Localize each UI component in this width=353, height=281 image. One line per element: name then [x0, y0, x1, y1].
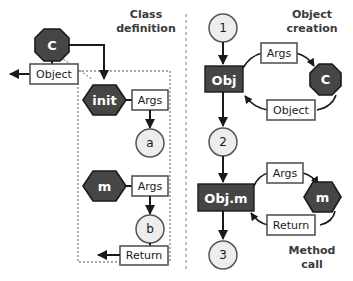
objm-box-label: Obj.m	[204, 191, 247, 206]
step-2-node-label: 2	[219, 135, 227, 149]
edge-return-to-objm-call	[251, 213, 268, 225]
right-panel-title-top-line1: Object	[292, 8, 332, 21]
right-panel-title-top-line2: creation	[286, 22, 337, 35]
call-args-box-label: Args	[273, 167, 298, 180]
obj-box-label: Obj	[212, 73, 237, 88]
creation-class-node-c-label: C	[321, 72, 331, 87]
creation-args-box-label: Args	[267, 47, 292, 60]
edge-args-to-c-creation	[296, 53, 314, 66]
method-result-node-b-label: b	[146, 222, 154, 236]
return-box-label: Return	[126, 249, 163, 262]
left-panel-title-line1: Class	[130, 8, 163, 21]
init-result-node-a-label: a	[146, 136, 153, 150]
method-node-m-label: m	[98, 179, 112, 194]
right-panel-title-bottom-line2: call	[301, 258, 322, 271]
step-3-node-label: 3	[219, 248, 227, 262]
diagram-canvas: Class definition C Object init Args a m …	[0, 0, 353, 281]
edge-obj-to-args-creation	[243, 53, 262, 68]
method-args-box-label: Args	[138, 180, 163, 193]
object-box-label: Object	[36, 68, 73, 81]
edge-c-to-object-creation	[317, 95, 336, 110]
step-1-node-label: 1	[219, 21, 227, 35]
init-node-label: init	[92, 93, 116, 108]
edge-object-to-obj-creation	[245, 96, 268, 110]
edge-m-to-return-call	[320, 211, 335, 225]
call-return-box-label: Return	[273, 219, 310, 232]
call-method-node-m-label: m	[316, 190, 330, 205]
creation-object-box-label: Object	[273, 104, 310, 117]
right-panel-title-bottom-line1: Method	[289, 244, 336, 257]
init-args-box-label: Args	[138, 94, 163, 107]
class-node-c-label: C	[47, 38, 57, 53]
edge-objm-to-args-call	[254, 173, 268, 186]
left-panel-title-line2: definition	[116, 22, 176, 35]
